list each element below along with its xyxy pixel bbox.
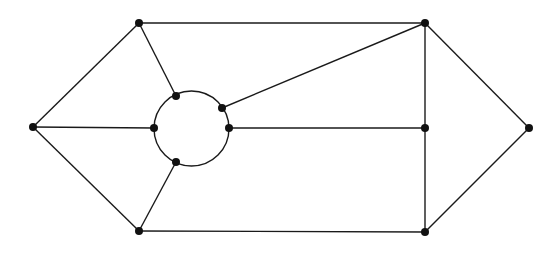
node-c4 <box>150 124 158 132</box>
edge-l-c4 <box>33 127 154 128</box>
node-tl <box>135 19 143 27</box>
node-bl <box>135 227 143 235</box>
node-c5 <box>172 158 180 166</box>
node-c2 <box>218 104 226 112</box>
node-l <box>29 123 37 131</box>
node-c3 <box>225 124 233 132</box>
node-mr <box>421 124 429 132</box>
edges <box>33 23 529 232</box>
edge-tr-r <box>425 23 529 128</box>
edge-tr-c2 <box>222 23 425 108</box>
central-cycle <box>154 91 229 166</box>
node-c1 <box>172 92 180 100</box>
node-tr <box>421 19 429 27</box>
node-br <box>421 228 429 236</box>
edge-bl-br <box>139 231 425 232</box>
edge-l-tl <box>33 23 139 127</box>
edge-br-r <box>425 128 529 232</box>
graph-diagram <box>0 0 551 260</box>
edge-bl-c5 <box>139 162 176 231</box>
edge-tl-c1 <box>139 23 176 96</box>
node-r <box>525 124 533 132</box>
edge-l-bl <box>33 127 139 231</box>
